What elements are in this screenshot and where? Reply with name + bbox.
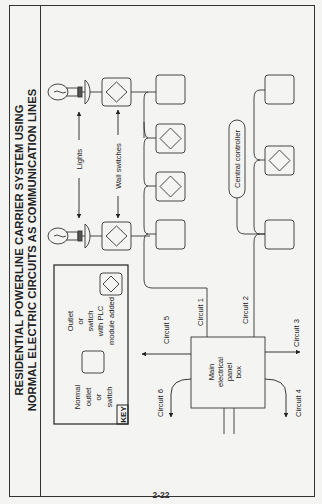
circuit-4-label: Circuit 4 bbox=[294, 389, 303, 417]
light-bulb-icon bbox=[48, 80, 90, 104]
central-controller-label: Central controller bbox=[233, 130, 242, 188]
key-plc-label: Outlet bbox=[66, 310, 75, 331]
light-bulb-icon bbox=[48, 224, 90, 248]
wall-switch-plc-top bbox=[102, 78, 131, 106]
key-plc-label: or bbox=[76, 317, 85, 324]
circuit-3-label: Circuit 3 bbox=[292, 319, 301, 347]
circuit-2-label: Circuit 2 bbox=[241, 296, 250, 324]
key-plc-outlet-icon bbox=[100, 273, 122, 295]
normal-outlet-box bbox=[265, 75, 294, 104]
wall-switches-callout: Wall switches bbox=[114, 110, 123, 218]
key-legend: KEY Normal outlet or switch Outlet or sw… bbox=[54, 265, 128, 424]
key-normal-label: Normal bbox=[73, 384, 82, 409]
normal-outlet-box bbox=[156, 220, 185, 249]
circuit-6-label: Circuit 6 bbox=[156, 389, 165, 417]
normal-outlet-box bbox=[265, 220, 294, 249]
panel-label-line: electrical bbox=[216, 357, 225, 387]
panel-label-line: panel bbox=[225, 362, 234, 381]
figure-frame bbox=[10, 6, 315, 497]
key-normal-outlet-icon bbox=[82, 351, 104, 373]
main-electrical-panel-box: Main electrical panel box bbox=[191, 337, 265, 408]
page-number: 2-22 bbox=[0, 490, 322, 500]
powerline-carrier-diagram: RESIDENTIAL POWERLINE CARRIER SYSTEM USI… bbox=[0, 0, 322, 504]
wall-switch-plc-bottom bbox=[102, 222, 131, 250]
key-plc-label: module added bbox=[107, 297, 116, 345]
key-normal-label: switch bbox=[105, 386, 114, 407]
title-line-1: RESIDENTIAL POWERLINE CARRIER SYSTEM USI… bbox=[13, 104, 25, 395]
normal-outlet-box bbox=[156, 75, 185, 104]
plc-outlet-box bbox=[156, 172, 185, 201]
lights-callout: Lights bbox=[75, 112, 84, 218]
panel-label-line: box bbox=[234, 366, 243, 378]
plc-outlet-box bbox=[265, 146, 294, 175]
central-controller: Central controller bbox=[229, 120, 245, 198]
key-normal-label: outlet bbox=[84, 387, 93, 406]
plc-outlet-box bbox=[156, 124, 185, 153]
lights-label: Lights bbox=[75, 149, 84, 169]
circuit-1-label: Circuit 1 bbox=[196, 298, 205, 326]
key-tag: KEY bbox=[119, 406, 128, 423]
title-line-2: NORMAL ELECTRIC CIRCUITS AS COMMUNICATIO… bbox=[26, 88, 38, 411]
key-normal-label: or bbox=[94, 393, 103, 400]
key-plc-label: switch bbox=[86, 310, 95, 331]
panel-label-line: Main bbox=[207, 364, 216, 380]
figure-title: RESIDENTIAL POWERLINE CARRIER SYSTEM USI… bbox=[13, 88, 38, 411]
circuit-5-label: Circuit 5 bbox=[162, 316, 171, 344]
key-plc-label: with PLC bbox=[96, 305, 105, 337]
wall-switches-label: Wall switches bbox=[114, 143, 123, 189]
